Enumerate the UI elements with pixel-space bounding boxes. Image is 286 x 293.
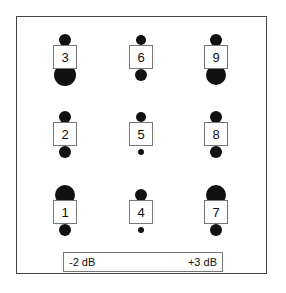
position-box-6: 6: [129, 45, 153, 69]
level-dot-bottom: [59, 224, 71, 236]
level-dot-bottom: [138, 227, 144, 233]
legend: -2 dB +3 dB: [63, 252, 223, 272]
legend-max-label: +3 dB: [188, 256, 217, 268]
position-box-4: 4: [129, 200, 153, 224]
level-dot-bottom: [210, 224, 222, 236]
legend-min-label: -2 dB: [69, 256, 95, 268]
level-dot-bottom: [135, 69, 147, 81]
position-box-1: 1: [53, 200, 77, 224]
level-dot-top: [136, 112, 146, 122]
level-dot-bottom: [210, 146, 222, 158]
level-dot-top: [136, 35, 146, 45]
position-box-5: 5: [129, 122, 153, 146]
position-box-3: 3: [53, 45, 77, 69]
level-dot-bottom: [138, 149, 144, 155]
level-dot-bottom: [59, 146, 71, 158]
position-box-7: 7: [204, 200, 228, 224]
position-box-2: 2: [53, 122, 77, 146]
position-box-9: 9: [204, 45, 228, 69]
diagram-stage: 369258147: [0, 0, 286, 293]
position-box-8: 8: [204, 122, 228, 146]
